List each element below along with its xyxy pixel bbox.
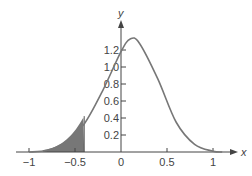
y-axis-arrow-icon bbox=[118, 20, 124, 28]
x-tick-label: 1 bbox=[210, 156, 216, 168]
y-tick-label: 0.6 bbox=[104, 95, 119, 107]
chart: x y −1−0.500.510.20.40.60.81.01.2 bbox=[0, 0, 252, 176]
x-tick-label: 0.5 bbox=[159, 156, 174, 168]
x-tick-label: −1 bbox=[23, 156, 36, 168]
axes: x y bbox=[16, 7, 247, 158]
shaded-area bbox=[43, 116, 84, 152]
y-tick-label: 0.2 bbox=[104, 129, 119, 141]
shaded-region bbox=[43, 118, 84, 152]
x-tick-label: −0.5 bbox=[64, 156, 86, 168]
y-tick-label: 0.4 bbox=[104, 112, 119, 124]
x-axis-label: x bbox=[240, 146, 247, 158]
x-tick-label: 0 bbox=[118, 156, 124, 168]
x-axis-arrow-icon bbox=[230, 149, 238, 155]
y-tick-label: 1.2 bbox=[104, 44, 119, 56]
y-axis-label: y bbox=[117, 7, 125, 19]
